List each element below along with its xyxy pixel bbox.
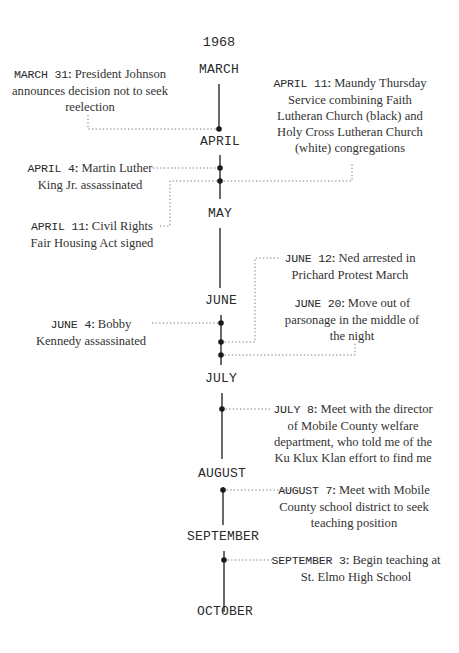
event-june-4: JUNE 4:Bobby Kennedy assassinated xyxy=(30,316,152,349)
event-september-3: SEPTEMBER 3:Begin teaching at St. Elmo H… xyxy=(270,552,442,585)
event-date: JULY 8 xyxy=(273,403,314,416)
event-april-4: APRIL 4:Martin Luther King Jr. assassina… xyxy=(22,160,158,193)
event-july-8: JULY 8:Meet with the director of Mobile … xyxy=(268,401,438,466)
month-label-march: MARCH xyxy=(159,63,279,77)
event-date: SEPTEMBER 3 xyxy=(271,554,345,567)
event-dots xyxy=(216,126,227,563)
year-label: 1968 xyxy=(179,36,259,50)
timeline-diagram: 1968 MARCH APRIL MAY JUNE JULY AUGUST SE… xyxy=(0,0,459,653)
event-separator: : xyxy=(68,68,72,80)
event-date: JUNE 4 xyxy=(51,318,92,331)
event-date: AUGUST 7 xyxy=(278,484,332,497)
event-date: APRIL 4 xyxy=(28,162,75,175)
event-separator: : xyxy=(341,297,345,309)
event-date: JUNE 20 xyxy=(294,297,341,310)
month-label-july: JULY xyxy=(161,372,281,386)
event-april-11-maundy-thursday: APRIL 11:Maundy Thursday Service combini… xyxy=(266,75,434,156)
event-date: APRIL 11 xyxy=(273,77,327,90)
event-june-12: JUNE 12:Ned arrested in Prichard Protest… xyxy=(280,250,420,283)
event-april-11-fair-housing: APRIL 11:Civil Rights Fair Housing Act s… xyxy=(24,218,160,251)
month-label-april: APRIL xyxy=(160,135,280,149)
month-label-may: MAY xyxy=(160,207,280,221)
event-date: JUNE 12 xyxy=(285,252,332,265)
event-separator: : xyxy=(91,318,95,330)
event-date: APRIL 11 xyxy=(31,220,85,233)
month-label-august: AUGUST xyxy=(162,467,282,481)
month-label-october: OCTOBER xyxy=(165,605,285,619)
event-date: MARCH 31 xyxy=(14,68,68,81)
event-separator: : xyxy=(346,554,350,566)
month-label-june: JUNE xyxy=(161,294,281,308)
event-separator: : xyxy=(75,162,79,174)
event-separator: : xyxy=(327,77,331,89)
month-label-september: SEPTEMBER xyxy=(163,530,283,544)
event-separator: : xyxy=(314,403,318,415)
event-separator: : xyxy=(332,252,336,264)
event-separator: : xyxy=(85,220,89,232)
event-separator: : xyxy=(332,484,336,496)
event-august-7: AUGUST 7:Meet with Mobile County school … xyxy=(274,482,434,531)
event-june-20: JUNE 20:Move out of parsonage in the mid… xyxy=(282,295,422,344)
event-march-31: MARCH 31:President Johnson announces dec… xyxy=(10,66,170,115)
